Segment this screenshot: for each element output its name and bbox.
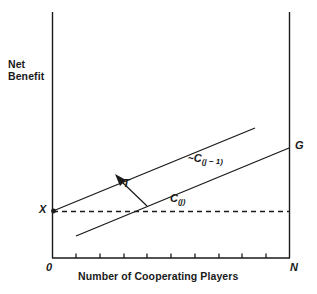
lower-cost-line-label-sub: (j) <box>178 197 186 206</box>
lower-cost-line-label-base: C <box>170 192 178 204</box>
t-gap-label: T <box>123 177 130 190</box>
x-point-label: X <box>39 203 46 216</box>
y-axis-title-line2: Benefit <box>8 70 44 82</box>
x-point-marker <box>51 209 56 214</box>
chart-plot-area <box>0 0 317 294</box>
upper-cost-line <box>53 128 255 211</box>
x-axis-max-label: N <box>290 261 298 274</box>
upper-cost-line-label-base: C <box>194 152 202 164</box>
x-axis-title: Number of Cooperating Players <box>78 270 238 282</box>
net-benefit-chart-figure: NetBenefit Number of Cooperating Players… <box>0 0 317 294</box>
upper-cost-line-label: ~C(j − 1) <box>188 152 223 166</box>
g-point-label: G <box>295 139 304 152</box>
upper-cost-line-label-sub: (j − 1) <box>202 157 223 166</box>
lower-cost-line-label: C(j) <box>170 192 186 206</box>
y-axis-title-line1: Net <box>8 58 25 70</box>
x-axis-origin-label: 0 <box>46 261 52 274</box>
y-axis-title: NetBenefit <box>8 58 44 83</box>
